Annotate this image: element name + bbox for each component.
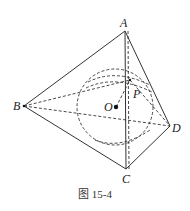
segment-A-foot bbox=[128, 31, 129, 169]
edge-AC bbox=[125, 31, 126, 169]
label-A: A bbox=[120, 17, 127, 29]
segment-BP bbox=[24, 80, 130, 106]
label-B: B bbox=[13, 100, 20, 112]
edge-BC bbox=[24, 106, 126, 169]
center-point-O bbox=[114, 105, 118, 109]
figure-caption: 图 15-4 bbox=[78, 189, 112, 200]
point-P-dot bbox=[129, 79, 131, 81]
label-O: O bbox=[104, 101, 113, 113]
edge-AB bbox=[24, 31, 125, 106]
label-P: P bbox=[133, 88, 140, 100]
sphere-arc-lower bbox=[95, 130, 150, 143]
vertex-B-dot bbox=[23, 105, 26, 108]
tetrahedron-diagram bbox=[0, 0, 190, 211]
geometry-figure: A B C D O P 图 15-4 bbox=[0, 0, 190, 211]
segment-OP bbox=[116, 80, 130, 107]
sphere-arc-upper-2 bbox=[86, 82, 152, 92]
label-D: D bbox=[172, 122, 181, 134]
edge-BD-hidden bbox=[24, 106, 170, 126]
edge-CD bbox=[126, 126, 170, 169]
label-C: C bbox=[122, 173, 130, 185]
